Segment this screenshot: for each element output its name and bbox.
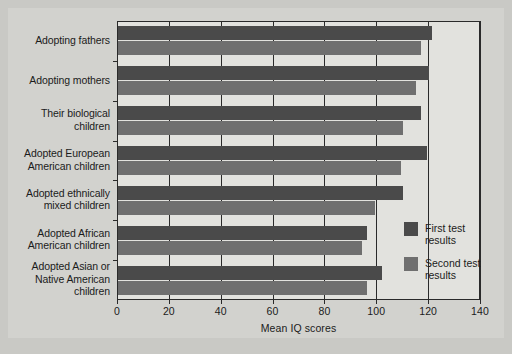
bar-first-test-2 [118, 106, 421, 120]
x-tick-mark-100 [376, 300, 377, 304]
bar-second-test-0 [118, 41, 421, 55]
bar-first-test-5 [118, 226, 367, 240]
bar-second-test-2 [118, 121, 403, 135]
legend-label: First testresults [425, 222, 483, 246]
legend-label-line: Second test [425, 257, 483, 269]
x-tick-mark-0 [117, 300, 118, 304]
bar-second-test-3 [118, 161, 401, 175]
bar-first-test-3 [118, 146, 427, 160]
category-label-1: Adopting mothers [0, 74, 110, 87]
x-tick-mark-140 [480, 300, 481, 304]
legend-label-line: results [425, 269, 483, 281]
y-tick-3 [113, 141, 118, 142]
legend-label: Second testresults [425, 257, 483, 281]
legend-item-first-test[interactable]: First testresults [404, 222, 483, 246]
x-tick-mark-120 [428, 300, 429, 304]
x-tick-label-100: 100 [356, 305, 396, 317]
legend-swatch-icon [404, 222, 418, 236]
x-tick-mark-60 [273, 300, 274, 304]
category-label-line: Adopting fathers [0, 34, 110, 47]
x-tick-label-20: 20 [149, 305, 189, 317]
bar-second-test-5 [118, 241, 362, 255]
x-tick-mark-80 [324, 300, 325, 304]
y-tick-5 [113, 220, 118, 221]
x-tick-mark-40 [221, 300, 222, 304]
category-label-line: mixed children [0, 199, 110, 212]
x-tick-label-80: 80 [304, 305, 344, 317]
y-tick-2 [113, 101, 118, 102]
category-label-6: Adopted Asian orNative Americanchildren [0, 260, 110, 298]
y-tick-1 [113, 61, 118, 62]
legend-item-second-test[interactable]: Second testresults [404, 257, 483, 281]
y-tick-6 [113, 260, 118, 261]
x-tick-label-140: 140 [460, 305, 500, 317]
legend-label-line: results [425, 234, 483, 246]
category-label-3: Adopted EuropeanAmerican children [0, 147, 110, 172]
bar-first-test-4 [118, 186, 403, 200]
y-tick-4 [113, 180, 118, 181]
category-label-line: American children [0, 239, 110, 252]
x-tick-label-40: 40 [201, 305, 241, 317]
category-label-2: Their biologicalchildren [0, 107, 110, 132]
category-label-4: Adopted ethnicallymixed children [0, 187, 110, 212]
category-label-line: American children [0, 160, 110, 173]
category-label-line: Their biological [0, 107, 110, 120]
category-label-line: Adopting mothers [0, 74, 110, 87]
legend-swatch-icon [404, 257, 418, 271]
bar-first-test-0 [118, 26, 432, 40]
x-tick-label-60: 60 [253, 305, 293, 317]
category-label-line: children [0, 285, 110, 298]
x-axis-title: Mean IQ scores [117, 322, 480, 334]
category-label-line: Adopted Asian or [0, 260, 110, 273]
bar-first-test-1 [118, 66, 429, 80]
x-tick-mark-20 [169, 300, 170, 304]
category-label-line: Native American [0, 273, 110, 286]
bar-second-test-6 [118, 281, 367, 295]
bar-first-test-6 [118, 266, 382, 280]
category-label-line: Adopted African [0, 227, 110, 240]
category-label-0: Adopting fathers [0, 34, 110, 47]
category-label-line: children [0, 120, 110, 133]
bar-second-test-4 [118, 201, 375, 215]
category-label-line: Adopted European [0, 147, 110, 160]
category-label-5: Adopted AfricanAmerican children [0, 227, 110, 252]
x-tick-label-0: 0 [97, 305, 137, 317]
legend-label-line: First test [425, 222, 483, 234]
chart-figure: Adopting fathersAdopting mothersTheir bi… [0, 0, 512, 354]
category-label-line: Adopted ethnically [0, 187, 110, 200]
bar-second-test-1 [118, 81, 416, 95]
x-tick-label-120: 120 [408, 305, 448, 317]
